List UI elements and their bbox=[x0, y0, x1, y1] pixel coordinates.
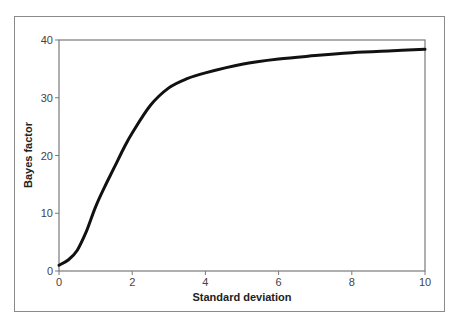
axes: 0246810010203040 bbox=[41, 34, 431, 288]
y-tick-label: 0 bbox=[47, 265, 53, 277]
x-tick-label: 0 bbox=[56, 276, 62, 288]
x-tick-label: 8 bbox=[349, 276, 355, 288]
y-tick-label: 20 bbox=[41, 150, 53, 162]
y-axis-title: Bayes factor bbox=[22, 121, 34, 188]
plot-area bbox=[59, 40, 425, 271]
x-tick-label: 2 bbox=[129, 276, 135, 288]
x-tick-label: 10 bbox=[419, 276, 431, 288]
y-tick-label: 40 bbox=[41, 34, 53, 46]
y-tick-label: 30 bbox=[41, 92, 53, 104]
bayes-factor-curve bbox=[59, 49, 425, 265]
line-chart: 0246810010203040 Standard deviation Baye… bbox=[0, 0, 458, 324]
x-tick-label: 6 bbox=[276, 276, 282, 288]
x-axis-title: Standard deviation bbox=[192, 291, 291, 303]
x-tick-label: 4 bbox=[202, 276, 208, 288]
y-tick-label: 10 bbox=[41, 207, 53, 219]
